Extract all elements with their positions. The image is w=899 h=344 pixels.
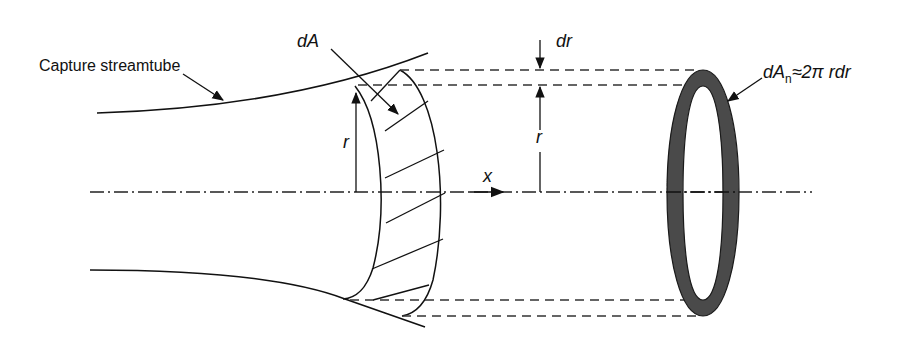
dAn-formula-label: dAn≈2π rdr <box>763 63 851 81</box>
dr-label: dr <box>556 32 572 50</box>
streamtube-diagram <box>0 0 899 344</box>
streamtube-pointer-arrow <box>183 74 223 100</box>
streamtube-lower-wall <box>90 270 425 327</box>
x-axis-label: x <box>483 167 492 185</box>
annular-ring <box>667 70 739 316</box>
disk-hatching <box>371 70 445 300</box>
dAn-suffix: ≈2π rdr <box>792 62 851 82</box>
r-right-label: r <box>536 128 542 146</box>
r-left-label: r <box>343 133 349 151</box>
dA-label: dA <box>297 32 319 50</box>
projection-dashed-lines <box>350 70 700 316</box>
dAn-prefix: dA <box>763 62 785 82</box>
dAn-subscript: n <box>785 72 792 86</box>
capture-streamtube-label: Capture streamtube <box>39 58 180 74</box>
dAn-pointer-arrow <box>728 78 762 101</box>
